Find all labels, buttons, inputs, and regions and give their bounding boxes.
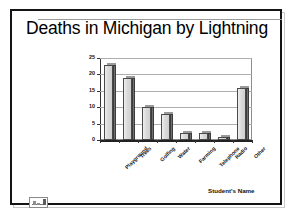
title-divider bbox=[38, 19, 282, 20]
bar-side-face bbox=[113, 65, 116, 140]
x-axis-labels: PlaygroundTreesGolfingWaterFarmingTeleph… bbox=[100, 143, 252, 187]
bar-front-face bbox=[237, 88, 247, 140]
bar[interactable] bbox=[237, 88, 247, 140]
bar[interactable] bbox=[199, 133, 209, 140]
bar-side-face bbox=[170, 114, 173, 140]
bar[interactable] bbox=[123, 78, 133, 140]
bar-series bbox=[100, 58, 252, 140]
bar-front-face bbox=[161, 114, 171, 140]
x-axis-tick bbox=[252, 140, 253, 143]
x-axis-label: Water bbox=[177, 146, 191, 160]
bar[interactable] bbox=[161, 114, 171, 140]
bar-side-face bbox=[151, 107, 154, 140]
bar-front-face bbox=[199, 133, 209, 140]
student-name-label: Student's Name bbox=[208, 187, 255, 194]
thumbnail-bar bbox=[33, 201, 36, 205]
bar-side-face bbox=[227, 137, 230, 140]
bar-side-face bbox=[132, 78, 135, 140]
bar-front-face bbox=[104, 65, 114, 140]
y-axis-tick-label: 10 bbox=[81, 104, 95, 109]
bar-chart[interactable]: 0510152025 PlaygroundTreesGolfingWaterFa… bbox=[62, 47, 274, 187]
thumbnail-bar bbox=[43, 199, 46, 205]
slide-title-block: Deaths in Michigan by Lightning bbox=[24, 17, 270, 39]
bar-front-face bbox=[218, 137, 228, 140]
bar[interactable] bbox=[180, 133, 190, 140]
page-title: Deaths in Michigan by Lightning bbox=[24, 17, 270, 39]
slide-frame: Deaths in Michigan by Lightning 05101520… bbox=[10, 9, 282, 205]
bar-front-face bbox=[180, 133, 190, 140]
x-axis-label: Golfing bbox=[159, 146, 176, 163]
bar-side-face bbox=[208, 133, 211, 140]
x-axis-label: Farming bbox=[198, 146, 217, 165]
bar-side-face bbox=[246, 88, 249, 140]
y-axis-tick-label: 5 bbox=[81, 121, 95, 126]
y-axis-tick-label: 20 bbox=[81, 72, 95, 77]
thumbnail-bar bbox=[37, 203, 40, 205]
x-axis-label: Other bbox=[253, 146, 267, 160]
bar[interactable] bbox=[218, 137, 228, 140]
bar-front-face bbox=[142, 107, 152, 140]
chart-thumbnail-icon[interactable] bbox=[29, 197, 48, 208]
y-axis-tick-label: 15 bbox=[81, 88, 95, 93]
bar-front-face bbox=[123, 78, 133, 140]
bar[interactable] bbox=[104, 65, 114, 140]
y-axis-tick-label: 25 bbox=[81, 55, 95, 60]
bar[interactable] bbox=[142, 107, 152, 140]
bar-side-face bbox=[189, 133, 192, 140]
slide-canvas: Deaths in Michigan by Lightning 05101520… bbox=[0, 0, 292, 218]
y-axis-tick-label: 0 bbox=[81, 137, 95, 142]
